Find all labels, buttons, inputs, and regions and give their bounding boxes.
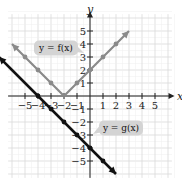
data-point [88, 146, 93, 151]
y-tick-label: −2 [71, 117, 86, 128]
grid [8, 12, 174, 178]
data-point [101, 159, 106, 164]
y-axis-label: y [86, 3, 94, 16]
y-tick-label: 5 [80, 26, 86, 37]
data-point [114, 42, 119, 47]
data-point [88, 68, 93, 73]
x-tick-label: 4 [139, 100, 145, 111]
x-tick-label: 3 [126, 100, 132, 111]
data-point [36, 94, 41, 99]
axes [8, 12, 174, 178]
x-axis-label: x [177, 90, 182, 103]
data-point [23, 55, 28, 60]
label-g: y = g(x) [93, 121, 143, 136]
data-point [49, 81, 54, 86]
data-point [75, 81, 80, 86]
svg-text:y = f(x): y = f(x) [38, 43, 73, 53]
y-tick-label: 4 [80, 39, 86, 50]
label-f: y = f(x) [34, 41, 84, 56]
y-tick-label: −5 [71, 156, 86, 167]
x-tick-label: 2 [113, 100, 119, 111]
data-point [62, 120, 67, 125]
chart: xy−5−4−3−2−11234554321−1−2−3−4−5y = f(x)… [0, 0, 182, 185]
data-point [49, 107, 54, 112]
svg-text:y = g(x): y = g(x) [102, 123, 139, 133]
x-tick-label: 5 [152, 100, 158, 111]
y-tick-label: −4 [71, 143, 86, 154]
data-point [101, 55, 106, 60]
y-tick-label: −1 [71, 104, 86, 115]
x-tick-label: 1 [100, 100, 106, 111]
data-point [75, 133, 80, 138]
data-point [36, 68, 41, 73]
y-tick-label: 3 [80, 52, 86, 63]
